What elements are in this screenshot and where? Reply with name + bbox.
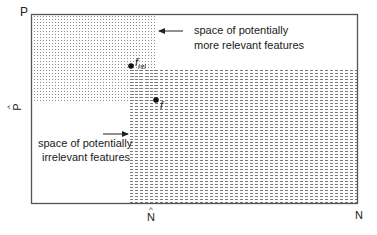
irrelevant-region [130,69,357,203]
f-rel-point [128,63,134,69]
f-point [153,97,159,103]
f-rel-label: frel [135,56,146,73]
relevant-region-label-line1: space of potentially [194,24,288,37]
relevant-region-label-line2: more relevant features [194,39,304,52]
irrelevant-region-label-line1: space of potentially [38,137,132,150]
p-axis-label: P [20,6,28,18]
irrelevant-region-label-line2: irrelevant features [42,151,130,164]
f-label: f [160,99,163,112]
p-hat-axis-label: P [11,103,23,110]
feature-space-diagram [0,0,377,235]
n-hat-axis-label: N [147,211,155,223]
n-axis-label: N [355,209,363,221]
